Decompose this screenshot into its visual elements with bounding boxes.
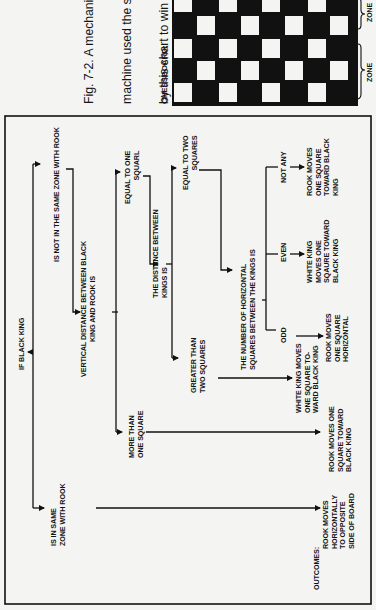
outcomes-label: OUTCOMES: [313, 547, 322, 590]
node-distance-between-kings: THE DISTANCE BETWEEN KINGS IS [152, 209, 169, 298]
outcome-rook-to-opposite-side: ROOK MOVES HORIZONTALLY TO OPPOSITE SIDE… [322, 493, 356, 549]
node-same-zone: IS IN SAME ZONE WITH ROOK [50, 484, 67, 546]
node-equal-to-two: EQUAL TO TWO SQUARES [182, 136, 199, 190]
outcome-rook-one-horizontal: ROOK MOVES ONE SQUARE HORIZONTAL [325, 313, 351, 362]
node-odd: ODD [280, 327, 289, 343]
node-if-black-king: IF BLACK KING [18, 318, 27, 370]
node-greater-than-two: GREATER THAN TWO SQUARES [190, 338, 207, 393]
node-not-any: NOT ANY [280, 152, 289, 183]
outcome-rook-one-toward-black-king: ROOK MOVES ONE SQUARE TOWARD BLACK KING [306, 138, 340, 196]
node-not-same-zone: IS NOT IN THE SAME ZONE WITH ROOK [53, 127, 62, 262]
outcome-white-king-one-toward: WHITE KING MOVES ONE SQAURE TOWARD BLACK… [306, 220, 340, 283]
node-equal-to-one: EQUAL TO ONE SQUARL [124, 151, 141, 204]
node-even: EVEN [280, 243, 289, 262]
node-vertical-distance: VERTICAL DISTANCE BETWEEN BLACK KING AND… [80, 241, 97, 377]
outcome-rook-one-toward-king: ROOK MOVES ONE SQUARE TOWARD BLACK KING [328, 406, 354, 472]
outcome-white-king-toward-black: WHITE KING MOVES ONE SQUARE TO- WARD BLA… [295, 344, 321, 413]
node-horizontal-count: THE NUMBER OF HORIZONTAL SQUARES BETWEEN… [240, 249, 257, 370]
node-more-than-one: MORE THAN ONE SQUARE [128, 411, 145, 458]
